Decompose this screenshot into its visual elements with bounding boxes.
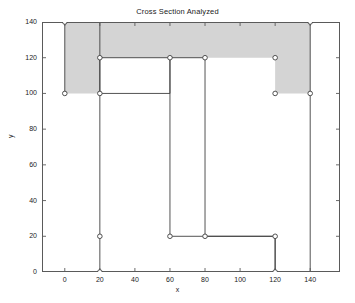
y-tick-label: 140 — [11, 18, 37, 25]
y-tick-label: 60 — [11, 161, 37, 168]
x-tick-label: 20 — [87, 276, 113, 283]
x-axis-label: x — [0, 286, 355, 293]
vertex-marker — [273, 234, 278, 239]
vertex-marker — [308, 91, 313, 96]
y-tick-label: 20 — [11, 232, 37, 239]
y-tick-label: 40 — [11, 197, 37, 204]
vertex-marker — [273, 91, 278, 96]
x-tick-label: 120 — [262, 276, 288, 283]
vertex-marker — [203, 55, 208, 60]
vertex-marker — [62, 91, 67, 96]
vertex-marker — [203, 234, 208, 239]
x-tick-label: 140 — [297, 276, 323, 283]
x-tick-label: 60 — [157, 276, 183, 283]
x-tick-label: 0 — [52, 276, 78, 283]
y-tick-label: 120 — [11, 54, 37, 61]
x-tick-label: 80 — [192, 276, 218, 283]
vertex-marker — [308, 22, 313, 24]
vertex-marker — [62, 22, 67, 24]
vertex-marker — [98, 91, 103, 96]
vertex-marker — [273, 55, 278, 60]
vertex-marker — [98, 55, 103, 60]
y-tick-label: 100 — [11, 89, 37, 96]
x-tick-label: 100 — [227, 276, 253, 283]
y-tick-label: 80 — [11, 125, 37, 132]
vertex-marker — [98, 270, 103, 272]
vertex-marker — [98, 234, 103, 239]
plot-svg — [42, 22, 340, 272]
vertex-marker — [168, 55, 173, 60]
vertex-marker — [168, 234, 173, 239]
chart-figure: Cross Section Analyzed y x 0204060801001… — [0, 0, 355, 303]
plot-area — [42, 22, 340, 272]
x-tick-label: 40 — [122, 276, 148, 283]
y-tick-label: 0 — [11, 268, 37, 275]
vertex-marker — [273, 270, 278, 272]
y-axis-label: y — [7, 135, 14, 139]
chart-title: Cross Section Analyzed — [0, 7, 355, 16]
